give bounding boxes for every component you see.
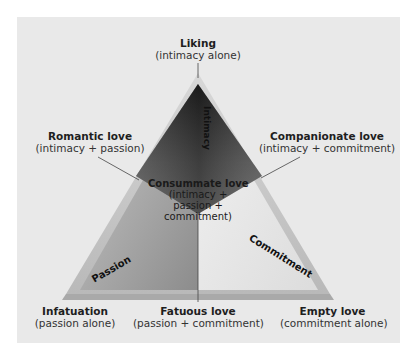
- companionate-leader-line: [261, 157, 300, 178]
- vertex-label-infatuation: Infatuation (passion alone): [30, 305, 120, 329]
- consummate-love-line1: (intimacy +: [148, 189, 248, 200]
- vertex-label-liking: Liking (intimacy alone): [148, 37, 248, 61]
- fatuous-love-title: Fatuous love: [133, 305, 263, 317]
- consummate-love-line3: commitment): [148, 211, 248, 222]
- center-label-consummate-love: Consummate love (intimacy + passion + co…: [148, 178, 248, 222]
- romantic-leader-line: [98, 157, 139, 180]
- empty-love-title: Empty love: [280, 305, 385, 317]
- empty-love-subtitle: (commitment alone): [280, 317, 385, 329]
- side-label-intimacy: Intimacy: [202, 106, 212, 150]
- romantic-love-subtitle: (intimacy + passion): [30, 142, 150, 154]
- edge-label-fatuous-love: Fatuous love (passion + commitment): [133, 305, 263, 329]
- fatuous-love-subtitle: (passion + commitment): [133, 317, 263, 329]
- liking-title: Liking: [148, 37, 248, 49]
- consummate-love-line2: passion +: [148, 200, 248, 211]
- romantic-love-title: Romantic love: [30, 130, 150, 142]
- edge-label-companionate-love: Companionate love (intimacy + commitment…: [252, 130, 402, 154]
- companionate-love-subtitle: (intimacy + commitment): [252, 142, 402, 154]
- companionate-love-title: Companionate love: [252, 130, 402, 142]
- consummate-love-title: Consummate love: [148, 178, 248, 189]
- infatuation-subtitle: (passion alone): [30, 317, 120, 329]
- edge-label-romantic-love: Romantic love (intimacy + passion): [30, 130, 150, 154]
- vertex-label-empty-love: Empty love (commitment alone): [280, 305, 385, 329]
- liking-subtitle: (intimacy alone): [148, 49, 248, 61]
- infatuation-title: Infatuation: [30, 305, 120, 317]
